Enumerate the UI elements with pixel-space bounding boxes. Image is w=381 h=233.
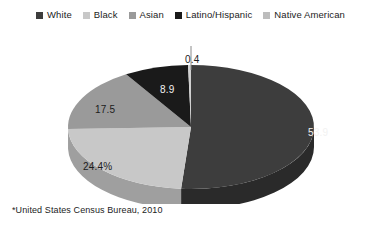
slice-value-native-american: 0.4 (185, 55, 200, 65)
legend-label-black: Black (94, 10, 118, 20)
slice-value-white: 53.9 (308, 128, 328, 138)
pie-chart-figure: White Black Asian Latino/Hispanic Native… (0, 0, 381, 233)
legend-swatch-native-american-icon (263, 12, 270, 19)
legend-item-latino-hispanic: Latino/Hispanic (175, 10, 252, 20)
chart-footnote: *United States Census Bureau, 2010 (12, 205, 163, 215)
legend-item-native-american: Native American (263, 10, 345, 20)
legend-label-asian: Asian (140, 10, 164, 20)
legend-swatch-latino-hispanic-icon (175, 12, 182, 19)
legend-item-black: Black (83, 10, 118, 20)
pie-plot-area: 0.4 8.9 17.5 24.4% 53.9 (0, 24, 381, 204)
legend-label-latino-hispanic: Latino/Hispanic (186, 10, 252, 20)
chart-legend: White Black Asian Latino/Hispanic Native… (0, 6, 381, 24)
slice-value-latino-hispanic: 8.9 (160, 85, 175, 95)
pie-svg (0, 24, 381, 204)
legend-item-asian: Asian (129, 10, 164, 20)
legend-label-white: White (47, 10, 72, 20)
legend-swatch-asian-icon (129, 12, 136, 19)
legend-label-native-american: Native American (274, 10, 345, 20)
legend-item-white: White (36, 10, 72, 20)
slice-value-black: 24.4% (83, 162, 112, 172)
legend-swatch-white-icon (36, 12, 43, 19)
legend-swatch-black-icon (83, 12, 90, 19)
slice-value-asian: 17.5 (95, 105, 115, 115)
